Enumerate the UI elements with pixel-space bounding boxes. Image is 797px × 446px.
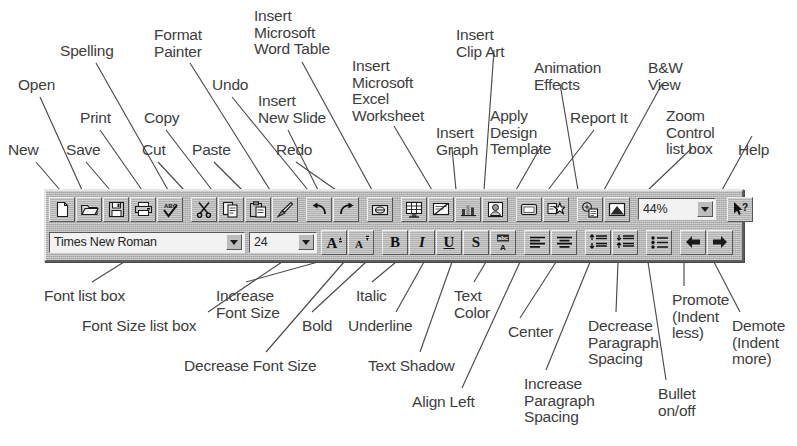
leader-line-bw-view [604, 84, 662, 190]
leader-line-print [100, 130, 142, 190]
toolbar-separator [360, 209, 367, 210]
callout-label-promote: Promote (Indent less) [672, 292, 729, 342]
leader-line-italic [372, 262, 396, 282]
callout-label-demote: Demote (Indent more) [732, 318, 785, 368]
promote-left-arrow-icon[interactable] [680, 230, 706, 255]
callout-label-insert-excel-sheet: Insert Microsoft Excel Worksheet [352, 58, 424, 124]
svg-text:?: ? [741, 202, 747, 213]
toolbar-separator [375, 242, 382, 243]
bullet-list-icon[interactable] [646, 230, 672, 255]
insert-word-table-icon[interactable]: W [401, 197, 427, 222]
callout-label-decrease-font-size: Decrease Font Size [184, 358, 317, 375]
zoom-control-list-box[interactable]: 44% [638, 198, 716, 220]
toolbar-separator [299, 209, 306, 210]
align-left-icon[interactable] [524, 230, 550, 255]
callout-label-insert-graph: Insert Graph [436, 125, 478, 158]
underline-icon[interactable]: U [436, 230, 462, 255]
insert-graph-chart-icon[interactable] [455, 197, 481, 222]
callout-label-italic: Italic [356, 288, 387, 305]
callout-label-help: Help [738, 142, 769, 159]
callout-label-undo: Undo [212, 77, 248, 94]
callout-label-cut: Cut [142, 142, 166, 159]
spelling-abc-check-icon[interactable]: ABC [157, 197, 183, 222]
leader-line-font-list-box [92, 262, 124, 282]
insert-clip-art-icon[interactable] [482, 197, 508, 222]
leader-line-insert-excel-sheet [394, 126, 432, 190]
new-icon[interactable] [49, 197, 75, 222]
zoom-value: 44% [639, 202, 697, 216]
toolbar-panel: ABC [44, 189, 744, 262]
leader-line-decrease-paragraph-spacing [616, 262, 618, 312]
leader-line-report-it [548, 130, 594, 190]
chevron-down-icon[interactable] [697, 201, 713, 217]
callout-label-apply-design-template: Apply Design Template [490, 108, 551, 158]
paintbrush-icon[interactable] [272, 197, 298, 222]
text-shadow-icon[interactable]: S [463, 230, 489, 255]
font-size-value: 24 [250, 235, 298, 249]
decrease-font-size-icon[interactable]: A [348, 230, 374, 255]
increase-font-size-icon[interactable]: A [321, 230, 347, 255]
insert-new-slide-icon[interactable] [428, 197, 454, 222]
leader-line-redo [296, 162, 336, 190]
callout-label-insert-clip-art: Insert Clip Art [456, 27, 504, 60]
callout-label-underline: Underline [348, 318, 413, 335]
toolbar-separator [184, 209, 191, 210]
toolbar-separator [509, 209, 516, 210]
black-and-white-view-icon[interactable] [604, 197, 630, 222]
standard-toolbar: ABC [49, 193, 754, 225]
callout-label-insert-new-slide: Insert New Slide [258, 93, 326, 126]
text-color-icon[interactable]: abcA [490, 230, 516, 255]
callout-label-format-painter: Format Painter [154, 27, 202, 60]
report-it-icon[interactable] [577, 197, 603, 222]
toolbar-separator [631, 209, 638, 210]
italic-icon[interactable]: I [409, 230, 435, 255]
apply-design-template-icon[interactable] [516, 197, 542, 222]
leader-line-center [520, 262, 556, 318]
hyperlink-icon[interactable] [367, 197, 393, 222]
leader-line-new [36, 162, 60, 190]
leader-line-save [86, 162, 110, 190]
toolbar-separator [570, 209, 577, 210]
font-size-list-box[interactable]: 24 [249, 232, 317, 253]
callout-label-animation-effects: Animation Effects [534, 60, 601, 93]
decrease-paragraph-spacing-icon[interactable] [612, 230, 638, 255]
svg-text:A: A [355, 238, 363, 250]
callout-label-increase-paragraph-spacing: Increase Paragraph Spacing [524, 376, 595, 426]
open-folder-icon[interactable] [76, 197, 102, 222]
callout-label-font-size-list-box: Font Size list box [82, 318, 196, 335]
increase-paragraph-spacing-icon[interactable] [585, 230, 611, 255]
callout-label-open: Open [18, 77, 55, 94]
callout-label-spelling: Spelling [60, 43, 114, 60]
animation-effects-star-icon[interactable] [543, 197, 569, 222]
center-icon[interactable] [551, 230, 577, 255]
scissors-icon[interactable] [191, 197, 217, 222]
toolbar-separator [578, 242, 585, 243]
leader-line-paste [214, 162, 242, 190]
callout-label-align-left: Align Left [412, 394, 475, 411]
help-arrow-question-icon[interactable]: ? [727, 197, 753, 222]
copy-pages-icon[interactable] [218, 197, 244, 222]
callout-label-copy: Copy [144, 110, 179, 127]
toolbar-separator [394, 209, 401, 210]
chevron-down-icon[interactable] [298, 234, 314, 250]
leader-line-text-shadow [420, 262, 452, 352]
chevron-down-icon[interactable] [226, 234, 242, 250]
figure-canvas: NewOpenSavePrintSpellingCutCopyPasteForm… [0, 0, 797, 446]
save-floppy-icon[interactable] [103, 197, 129, 222]
toolbar-separator [517, 242, 524, 243]
printer-icon[interactable] [130, 197, 156, 222]
callout-label-new: New [8, 142, 38, 159]
svg-text:A: A [327, 235, 338, 251]
toolbar-separator [639, 242, 646, 243]
undo-arrow-icon[interactable] [306, 197, 332, 222]
callout-label-print: Print [80, 110, 111, 127]
redo-arrow-icon[interactable] [333, 197, 359, 222]
bold-icon[interactable]: B [382, 230, 408, 255]
formatting-toolbar: Times New Roman 24 A A B I U [49, 226, 734, 258]
font-list-box[interactable]: Times New Roman [49, 232, 245, 253]
clipboard-paste-icon[interactable] [245, 197, 271, 222]
demote-right-arrow-icon[interactable] [707, 230, 733, 255]
callout-label-bold: Bold [302, 318, 332, 335]
callout-label-redo: Redo [276, 142, 312, 159]
callout-label-center: Center [508, 324, 553, 341]
